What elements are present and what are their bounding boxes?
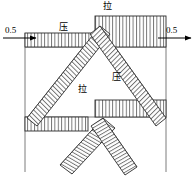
label-compression-top: 压 bbox=[59, 23, 68, 32]
label-tension-top: 拉 bbox=[103, 2, 112, 11]
load-value-right: 0.5 bbox=[166, 26, 177, 35]
label-tension-middle: 拉 bbox=[78, 85, 87, 94]
stress-diagram-figure: 拉 压 拉 压 0.5 0.5 bbox=[0, 0, 194, 177]
diagram-canvas bbox=[0, 0, 194, 177]
label-compression-middle: 压 bbox=[112, 73, 121, 82]
load-value-left: 0.5 bbox=[5, 26, 16, 35]
